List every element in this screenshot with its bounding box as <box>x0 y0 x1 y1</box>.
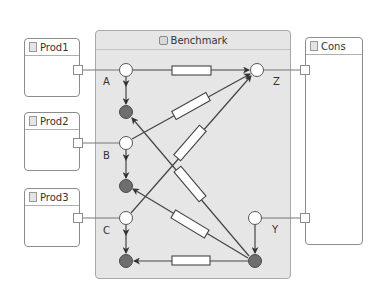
label-b: B <box>103 150 110 161</box>
resistor-y-a[interactable] <box>174 166 206 202</box>
node-c[interactable] <box>120 212 133 225</box>
resistor-c-z[interactable] <box>174 125 206 160</box>
cons-input-port-z[interactable] <box>300 65 310 75</box>
resistor-b-z[interactable] <box>172 93 210 120</box>
resistor-y-b[interactable] <box>171 210 209 238</box>
resistor-a-z[interactable] <box>172 66 211 75</box>
node-a[interactable] <box>120 64 133 77</box>
node-b[interactable] <box>120 137 133 150</box>
prod2-output-port[interactable] <box>73 138 83 148</box>
node-y-sink[interactable] <box>249 255 262 268</box>
label-z: Z <box>273 76 280 87</box>
resistor-y-c[interactable] <box>172 256 210 265</box>
label-y: Y <box>272 224 278 235</box>
node-a-sink[interactable] <box>120 106 133 119</box>
node-c-sink[interactable] <box>120 255 133 268</box>
label-c: C <box>103 225 110 236</box>
node-y[interactable] <box>249 212 262 225</box>
node-z[interactable] <box>251 64 264 77</box>
cons-input-port-y[interactable] <box>300 213 310 223</box>
label-a: A <box>103 76 110 87</box>
prod3-output-port[interactable] <box>73 213 83 223</box>
node-b-sink[interactable] <box>120 180 133 193</box>
circuit-diagram <box>0 0 381 304</box>
prod1-output-port[interactable] <box>73 65 83 75</box>
